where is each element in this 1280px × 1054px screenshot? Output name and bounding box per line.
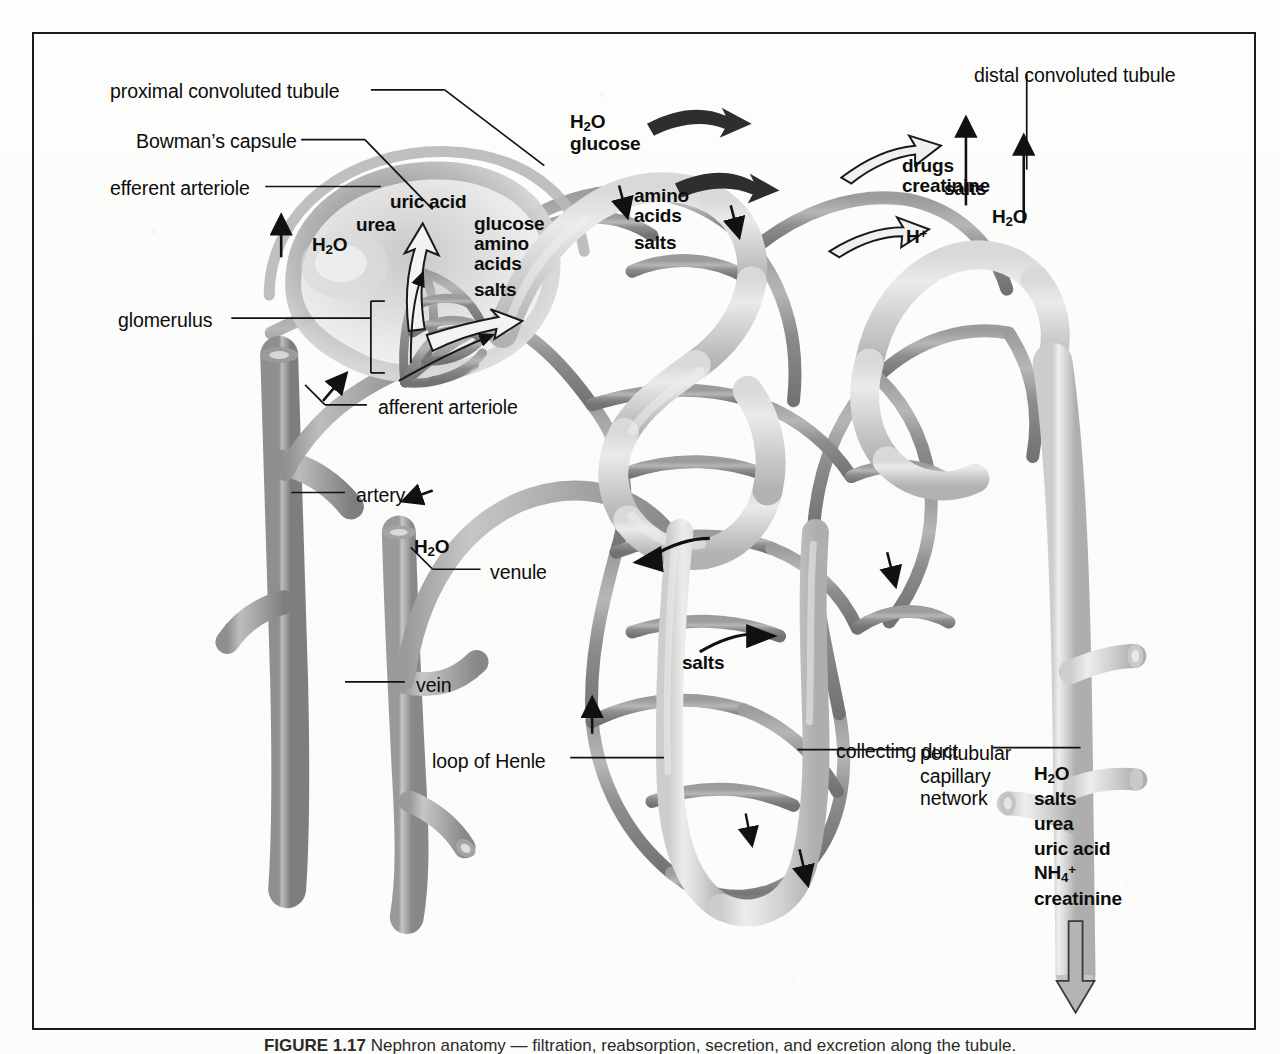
excreted-water: H2O xyxy=(1034,762,1122,787)
henle-salts: salts xyxy=(682,652,724,674)
filtrate-urea: urea xyxy=(356,214,395,236)
label-peritubular-capillary-network: peritubular capillary network xyxy=(920,742,1011,810)
reabsorb-water: H2O xyxy=(570,112,640,134)
reabsorb-water-glucose: H2O glucose xyxy=(570,112,640,154)
filtrate-water: H2O xyxy=(312,234,347,257)
henle-water: H2O xyxy=(414,536,449,559)
label-venule: venule xyxy=(490,561,547,584)
figure-frame: proximal convoluted tubule Bowman’s caps… xyxy=(32,32,1256,1030)
secretion-drugs: drugs xyxy=(902,156,990,176)
label-afferent-arteriole: afferent arteriole xyxy=(378,396,518,419)
excreted-salts: salts xyxy=(1034,787,1122,812)
label-glomerulus: glomerulus xyxy=(118,309,212,332)
figure-page: proximal convoluted tubule Bowman’s caps… xyxy=(0,0,1280,1054)
arrow-flow-3 xyxy=(887,552,895,584)
arrow-venule-out xyxy=(405,491,433,501)
label-distal-convoluted-tubule: distal convoluted tubule xyxy=(974,64,1175,87)
excreted-creatinine: creatinine xyxy=(1034,887,1122,912)
label-efferent-arteriole: efferent arteriole xyxy=(110,177,250,200)
excreted-substances-list: H2O salts urea uric acid NH4+ creatinine xyxy=(1034,762,1122,911)
caption-figure-number: FIGURE 1.17 xyxy=(264,1036,366,1054)
arrow-reabsorb-water-glucose xyxy=(647,108,752,138)
peritubular-line-2: capillary xyxy=(920,765,1011,788)
excreted-urea: urea xyxy=(1034,812,1122,837)
reabsorb-amino: amino xyxy=(634,186,689,206)
label-loop-of-henle: loop of Henle xyxy=(432,750,546,773)
figure-caption: FIGURE 1.17 Nephron anatomy — filtration… xyxy=(0,1036,1280,1054)
excreted-ammonium: NH4+ xyxy=(1034,861,1122,886)
reabsorb-acids: acids xyxy=(634,206,689,226)
reabsorb-glucose: glucose xyxy=(570,134,640,154)
label-proximal-convoluted-tubule: proximal convoluted tubule xyxy=(110,80,339,103)
reabsorb-amino-salts: amino acids salts xyxy=(634,186,689,253)
label-vein: vein xyxy=(416,674,451,697)
filtrate-amino: amino xyxy=(474,234,544,254)
dct-salts: salts xyxy=(944,178,986,200)
filtrate-uric-acid: uric acid xyxy=(390,191,466,213)
filtrate-acids: acids xyxy=(474,254,544,274)
caption-text: Nephron anatomy — filtration, reabsorpti… xyxy=(371,1036,1016,1054)
filtrate-glucose: glucose xyxy=(474,214,544,234)
peritubular-line-1: peritubular xyxy=(920,742,1011,765)
dct-water: H2O xyxy=(992,206,1027,229)
excreted-uric-acid: uric acid xyxy=(1034,837,1122,862)
reabsorb-salts: salts xyxy=(634,233,689,253)
filtrate-solutes: glucose amino acids salts xyxy=(474,214,544,300)
minor-flow-arrows xyxy=(746,813,752,843)
peritubular-line-3: network xyxy=(920,787,1011,810)
loop-of-henle xyxy=(669,532,816,913)
label-artery: artery xyxy=(356,484,405,507)
label-bowmans-capsule: Bowman’s capsule xyxy=(136,130,297,153)
filtrate-salts: salts xyxy=(474,280,544,300)
secretion-hydrogen-ion: H+ xyxy=(906,226,927,248)
artery-vessel xyxy=(227,347,351,889)
